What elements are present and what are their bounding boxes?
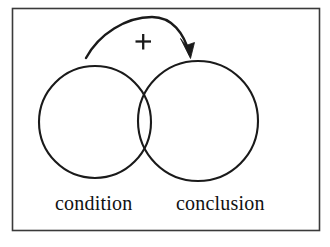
conclusion-label: conclusion	[176, 193, 265, 213]
diagram-canvas	[0, 0, 330, 247]
diagram-figure: condition conclusion	[0, 0, 330, 247]
figure-background	[0, 0, 330, 247]
condition-label: condition	[55, 193, 132, 213]
